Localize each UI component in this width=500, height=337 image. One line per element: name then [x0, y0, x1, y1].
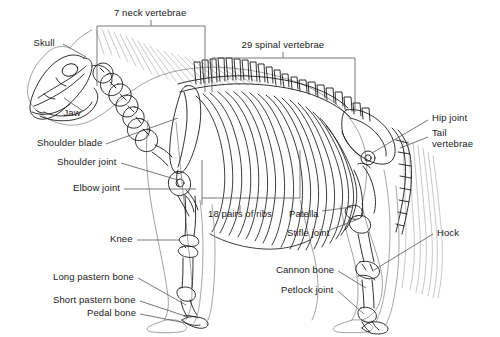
- label-ribs: 18 pairs of ribs: [208, 208, 272, 219]
- label-neck-vertebrae: 7 neck vertebrae: [114, 7, 186, 18]
- label-knee: Knee: [110, 233, 133, 244]
- leader-hip-joint: [372, 120, 428, 153]
- rib-cage: [196, 92, 357, 250]
- tail-vertebrae-bones: [392, 128, 412, 234]
- leader-hock: [374, 234, 433, 270]
- label-shoulder-joint: Shoulder joint: [57, 156, 117, 167]
- label-hock: Hock: [437, 227, 459, 238]
- label-short-pastern-bone: Short pastern bone: [53, 294, 136, 305]
- skeleton-illustration: [0, 0, 500, 337]
- horse-skeleton-diagram: 7 neck vertebrae 29 spinal vertebrae Sku…: [0, 0, 500, 337]
- label-hip-joint: Hip joint: [432, 112, 467, 123]
- label-long-pastern-bone: Long pastern bone: [53, 271, 134, 282]
- label-spinal-vertebrae: 29 spinal vertebrae: [242, 39, 325, 50]
- leader-shoulder-joint: [121, 163, 178, 180]
- label-patella: Patella: [289, 208, 319, 219]
- label-jaw: Jaw: [64, 107, 81, 118]
- leader-cannon-bone: [338, 271, 366, 288]
- label-shoulder-blade: Shoulder blade: [37, 137, 102, 148]
- tail-hair: [402, 138, 442, 298]
- neck-vertebrae-bones: [93, 63, 172, 166]
- leader-pedal-bone: [140, 314, 186, 323]
- label-cannon-bone: Cannon bone: [276, 264, 334, 275]
- leader-long-pastern: [138, 278, 186, 305]
- label-tail-vertebrae-line2: vertebrae: [432, 138, 473, 149]
- label-elbow-joint: Elbow joint: [73, 182, 120, 193]
- leader-petlock-joint: [338, 291, 364, 314]
- leader-stifle-joint: [330, 220, 356, 230]
- shoulder-blade-bone: [170, 85, 201, 186]
- leader-short-pastern: [140, 301, 188, 317]
- pelvis-hip-bones: [342, 109, 395, 165]
- label-stifle-joint: Stifle joint: [287, 227, 329, 238]
- label-skull: Skull: [34, 37, 55, 48]
- label-pedal-bone: Pedal bone: [87, 307, 136, 318]
- label-petlock-joint: Petlock joint: [281, 284, 334, 295]
- label-tail-vertebrae-line1: Tail: [432, 127, 447, 138]
